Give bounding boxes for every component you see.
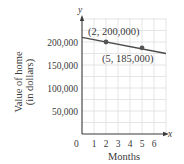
y-tick-label: 100,000: [47, 84, 78, 94]
x-tick-label: 3: [116, 139, 121, 149]
y-tick-label: 50,000: [52, 107, 78, 117]
y-axis-title-line-1: Value of home: [13, 51, 24, 113]
chart: (2, 200,000) (5, 185,000) y x 200,000 15…: [0, 0, 184, 164]
point-label-2: (5, 185,000): [102, 53, 154, 65]
y-axis-title: Value of home (in dollars): [13, 51, 36, 113]
value-line: [82, 37, 166, 53]
point-label-1: (2, 200,000): [88, 26, 140, 38]
y-axis-letter: y: [77, 5, 83, 15]
y-tick-label: 200,000: [47, 38, 78, 48]
y-tick-labels: 200,000 150,000 100,000 50,000: [47, 38, 78, 117]
x-tick-label: 6: [152, 139, 157, 149]
data-point-2: [140, 45, 145, 50]
x-tick-label: 5: [140, 139, 145, 149]
x-axis-title: Months: [108, 151, 140, 162]
x-tick-label: 2: [104, 139, 109, 149]
x-axis-letter: x: [167, 129, 173, 139]
y-tick-label: 150,000: [47, 61, 78, 71]
x-tick-label: 1: [92, 139, 97, 149]
y-axis-title-line-2: (in dollars): [24, 58, 36, 105]
x-tick-label: 4: [128, 139, 133, 149]
y-axis-arrow-icon: [80, 15, 84, 21]
data-point-1: [104, 40, 109, 45]
origin-label: 0: [74, 139, 79, 149]
x-tick-labels: 1 2 3 4 5 6: [92, 139, 157, 149]
